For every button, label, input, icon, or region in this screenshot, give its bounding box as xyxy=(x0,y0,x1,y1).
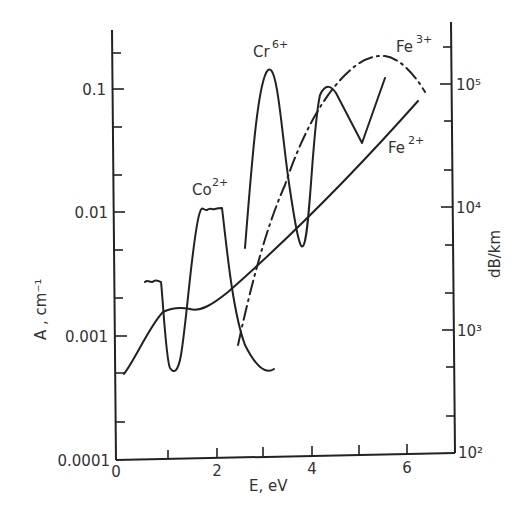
y-right-tick-label: 10³ xyxy=(457,322,482,340)
svg-text:Co: Co xyxy=(192,181,212,199)
co2-label: Co 2+ xyxy=(192,176,228,199)
y-right-tick-label: 10⁵ xyxy=(456,76,481,94)
y-right-tick-label: 10² xyxy=(458,444,483,462)
cr6-label: Cr 6+ xyxy=(253,38,288,61)
y-tick-label: 0.01 xyxy=(75,204,108,222)
left-y-axis xyxy=(112,30,116,460)
svg-text:Fe: Fe xyxy=(396,38,413,56)
svg-text:Fe: Fe xyxy=(388,139,405,157)
x-tick-label: 0 xyxy=(111,463,121,481)
svg-text:6+: 6+ xyxy=(272,38,288,51)
x-axis-label: E, eV xyxy=(249,477,288,495)
svg-text:3+: 3+ xyxy=(416,33,432,46)
fe3-label: Fe 3+ xyxy=(396,33,432,56)
y-right-tick-label: 10⁴ xyxy=(456,199,481,217)
svg-text:2+: 2+ xyxy=(408,134,424,147)
x-tick-label: 4 xyxy=(307,460,317,478)
co2-curve xyxy=(145,208,274,371)
svg-text:Cr: Cr xyxy=(253,43,270,61)
x-tick-label: 6 xyxy=(402,459,412,477)
fe3-curve xyxy=(238,56,425,345)
y-tick-label: 0.1 xyxy=(82,81,106,99)
fe2-label: Fe 2+ xyxy=(388,134,424,157)
svg-text:2+: 2+ xyxy=(212,176,228,189)
x-tick-label: 2 xyxy=(212,462,222,480)
right-y-axis xyxy=(451,22,455,453)
y-tick-label: 0.0001 xyxy=(58,452,111,470)
y-axis-label: A , cm⁻¹ xyxy=(32,279,50,340)
y-tick-label: 0.001 xyxy=(65,328,108,346)
absorption-chart: 0.1 0.01 0.001 0.0001 0 2 4 6 10⁵ 10⁴ 10… xyxy=(0,0,517,514)
y-right-axis-label: dB/km xyxy=(486,230,504,278)
fe2-curve xyxy=(124,101,418,374)
